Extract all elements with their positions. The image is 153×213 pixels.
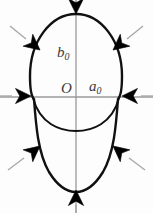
arrow-top-left bbox=[10, 26, 45, 56]
label-origin: O bbox=[61, 81, 72, 96]
ellipsoid-stability-diagram: b0 O a0 bbox=[0, 0, 153, 213]
label-a0-base: a bbox=[89, 78, 97, 94]
label-b0-subscript: 0 bbox=[65, 51, 70, 62]
diagram-canvas bbox=[0, 0, 153, 213]
label-b0: b0 bbox=[57, 45, 69, 62]
arrow-top-left-tail bbox=[10, 26, 26, 39]
arrow-right-head bbox=[122, 88, 138, 103]
axes-group bbox=[0, 0, 153, 213]
arrow-top bbox=[68, 0, 83, 14]
arrow-right bbox=[122, 88, 153, 103]
label-a0: a0 bbox=[89, 79, 101, 96]
arrow-top-right-tail bbox=[127, 26, 143, 39]
arrow-left-head bbox=[16, 88, 32, 103]
arrow-bottom-right-tail bbox=[129, 158, 145, 170]
label-a0-subscript: 0 bbox=[97, 85, 102, 96]
arrow-bottom bbox=[68, 190, 83, 213]
label-origin-base: O bbox=[61, 80, 72, 96]
arrow-left bbox=[0, 88, 31, 103]
label-b0-base: b bbox=[57, 44, 65, 60]
arrow-bottom-left-tail bbox=[8, 158, 24, 170]
